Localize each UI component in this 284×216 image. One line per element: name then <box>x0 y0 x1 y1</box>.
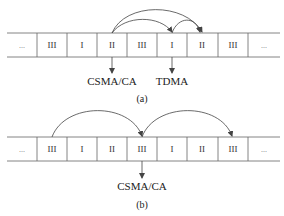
cell-b-5: I <box>171 144 174 154</box>
cell-b-7: III <box>229 144 238 154</box>
row-a-cells: ... III I II III I II III ... <box>19 40 267 50</box>
label-b-csma: CSMA/CA <box>117 180 167 192</box>
label-a-csma: CSMA/CA <box>87 75 137 87</box>
cell-b-2: I <box>81 144 84 154</box>
figure-a: ... III I II III I II III ... CSMA/CA TD… <box>7 10 280 105</box>
superframe-diagram: ... III I II III I II III ... CSMA/CA TD… <box>0 0 284 216</box>
figure-b: ... III I II III I II III ... CSMA/CA (b… <box>7 111 280 211</box>
cell-a-2: I <box>81 40 84 50</box>
cell-a-3: II <box>109 40 115 50</box>
cell-a-1: III <box>48 40 57 50</box>
cell-a-4: III <box>138 40 147 50</box>
cell-b-0: ... <box>19 145 25 154</box>
cell-b-1: III <box>48 144 57 154</box>
arc-a-small <box>172 20 200 33</box>
cell-b-6: II <box>199 144 205 154</box>
row-a-arcs <box>112 10 202 33</box>
cell-a-0: ... <box>19 41 25 50</box>
label-a-tdma: TDMA <box>156 75 188 87</box>
cell-b-4: III <box>138 144 147 154</box>
arc-b-first <box>52 111 142 137</box>
cell-a-8: ... <box>261 41 267 50</box>
row-b-cells: ... III I II III I II III ... <box>19 144 267 154</box>
row-b-arcs <box>52 111 232 137</box>
arc-a-mid <box>112 19 172 33</box>
cell-b-3: II <box>109 144 115 154</box>
cell-a-6: II <box>199 40 205 50</box>
cell-a-7: III <box>229 40 238 50</box>
arc-b-second <box>142 111 232 137</box>
cell-a-5: I <box>171 40 174 50</box>
caption-a: (a) <box>136 93 147 105</box>
caption-b: (b) <box>136 199 148 211</box>
cell-b-8: ... <box>261 145 267 154</box>
